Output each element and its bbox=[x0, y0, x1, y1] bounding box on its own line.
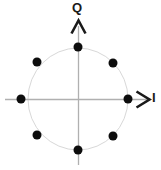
quadrature-axis-label: Q bbox=[72, 1, 82, 14]
constellation-canvas bbox=[0, 0, 161, 170]
constellation-point bbox=[74, 146, 83, 155]
constellation-diagram: Q I bbox=[0, 0, 161, 170]
constellation-point bbox=[124, 95, 133, 104]
constellation-point bbox=[109, 59, 118, 68]
constellation-point-group bbox=[17, 43, 133, 155]
constellation-point bbox=[74, 43, 83, 52]
inphase-axis-label: I bbox=[152, 91, 156, 104]
constellation-point bbox=[33, 131, 42, 140]
constellation-point bbox=[17, 95, 26, 104]
constellation-point bbox=[109, 132, 118, 141]
constellation-point bbox=[33, 58, 42, 67]
